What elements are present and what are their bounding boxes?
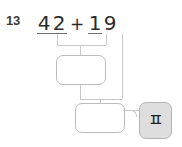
connector-ones-to-box1	[80, 45, 81, 55]
digit-ones-right: 9	[103, 13, 117, 33]
connector-ones-bracket	[57, 45, 106, 46]
connector-ones-right-long	[122, 34, 123, 99]
key-glyph: ㅍ	[148, 112, 164, 129]
connector-sum-bracket	[80, 99, 122, 100]
operator-plus: +	[70, 16, 84, 33]
connector-box1-down	[80, 85, 81, 99]
digit-ones-left: 2	[52, 13, 66, 33]
worksheet-problem-canvas: 13 4 2 + 1 9 ㅍ	[0, 0, 182, 147]
digit-tens-left: 4	[37, 13, 51, 33]
ones-sum-box[interactable]	[56, 55, 106, 85]
problem-number: 13	[6, 14, 20, 27]
underline-right-tens	[88, 33, 102, 34]
connector-ones-left-down	[57, 34, 58, 45]
connector-ones-right-down	[106, 34, 107, 45]
digit-tens-right: 1	[88, 13, 102, 33]
connector-box2-to-key	[123, 110, 137, 117]
final-sum-box[interactable]	[75, 103, 125, 133]
key-button[interactable]: ㅍ	[139, 102, 172, 139]
underline-left-number	[37, 33, 67, 34]
